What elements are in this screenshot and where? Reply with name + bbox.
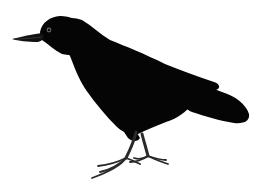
crow-illustration bbox=[0, 0, 262, 185]
crow-eye-pupil bbox=[48, 29, 51, 32]
crow-svg bbox=[0, 0, 262, 185]
